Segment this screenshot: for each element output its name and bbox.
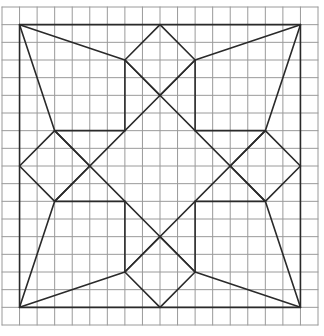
- quilt-diagram: [0, 0, 324, 336]
- graph-paper-grid: [2, 7, 318, 325]
